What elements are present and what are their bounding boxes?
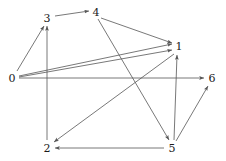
graph-edge-5-to-1 xyxy=(174,55,177,140)
graph-node-4: 4 xyxy=(93,7,100,18)
graph-edge-0-to-1 xyxy=(19,50,172,77)
graph-node-1: 1 xyxy=(176,41,183,52)
graph-node-6: 6 xyxy=(209,73,216,84)
graph-edge-4-to-5 xyxy=(98,19,169,140)
graph-edge-0-to-1 xyxy=(19,44,172,76)
graph-node-5: 5 xyxy=(169,143,176,154)
graph-edge-3-to-4 xyxy=(55,11,89,16)
graph-node-2: 2 xyxy=(44,143,51,154)
graph-edge-5-to-6 xyxy=(176,86,208,141)
graph-edge-4-to-1 xyxy=(101,18,172,43)
edge-layer xyxy=(17,11,208,148)
directed-graph-figure: 0123456 xyxy=(0,0,226,161)
graph-node-3: 3 xyxy=(44,13,51,24)
graph-node-0: 0 xyxy=(9,73,16,84)
graph-edge-0-to-3 xyxy=(17,26,44,71)
graph-canvas xyxy=(0,0,226,161)
graph-edge-1-to-2 xyxy=(54,54,174,142)
